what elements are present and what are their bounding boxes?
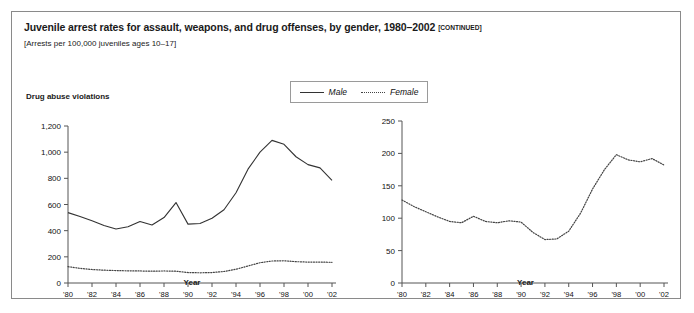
svg-text:'00: '00 — [303, 290, 313, 297]
line-chart-right: 050100150200250'80'82'84'86'88'90'92'94'… — [348, 92, 680, 297]
svg-text:'88: '88 — [159, 290, 169, 297]
svg-text:250: 250 — [382, 117, 396, 126]
panel-right-xlabel: Year — [388, 278, 663, 287]
svg-text:'88: '88 — [492, 290, 502, 297]
svg-text:50: 50 — [386, 247, 395, 256]
svg-text:'98: '98 — [611, 290, 621, 297]
svg-text:'96: '96 — [588, 290, 598, 297]
figure-title-continued: [CONTINUED] — [438, 24, 482, 31]
svg-text:200: 200 — [382, 149, 396, 158]
svg-text:'86: '86 — [135, 290, 145, 297]
svg-text:'82: '82 — [421, 290, 431, 297]
svg-text:'02: '02 — [659, 290, 669, 297]
svg-text:'80: '80 — [63, 290, 73, 297]
svg-text:'80: '80 — [397, 290, 407, 297]
svg-text:'02: '02 — [327, 290, 337, 297]
svg-text:100: 100 — [382, 214, 396, 223]
svg-text:'92: '92 — [540, 290, 550, 297]
svg-text:'86: '86 — [469, 290, 479, 297]
svg-text:'90: '90 — [183, 290, 193, 297]
svg-text:'94: '94 — [564, 290, 574, 297]
svg-text:'96: '96 — [255, 290, 265, 297]
svg-text:'90: '90 — [516, 290, 526, 297]
chart-panel-right: 050100150200250'80'82'84'86'88'90'92'94'… — [348, 92, 680, 297]
svg-text:1,200: 1,200 — [41, 122, 62, 131]
svg-text:800: 800 — [48, 174, 62, 183]
figure-title-text: Juvenile arrest rates for assault, weapo… — [24, 21, 435, 33]
svg-text:'82: '82 — [87, 290, 97, 297]
svg-text:400: 400 — [48, 227, 62, 236]
panel-left-xlabel: Year — [52, 278, 332, 287]
figure-panel: Juvenile arrest rates for assault, weapo… — [11, 11, 681, 299]
svg-text:1,000: 1,000 — [41, 148, 62, 157]
figure-title: Juvenile arrest rates for assault, weapo… — [24, 21, 482, 33]
svg-text:150: 150 — [382, 182, 396, 191]
svg-text:'00: '00 — [635, 290, 645, 297]
figure-subtitle: [Arrests per 100,000 juveniles ages 10–1… — [24, 39, 176, 48]
svg-text:'84: '84 — [445, 290, 455, 297]
svg-text:'92: '92 — [207, 290, 217, 297]
svg-text:'94: '94 — [231, 290, 241, 297]
svg-text:200: 200 — [48, 253, 62, 262]
svg-text:'84: '84 — [111, 290, 121, 297]
chart-panel-left: Drug abuse violations 02004006008001,000… — [12, 92, 348, 297]
svg-text:600: 600 — [48, 201, 62, 210]
svg-text:'98: '98 — [279, 290, 289, 297]
line-chart-left: 02004006008001,0001,200'80'82'84'86'88'9… — [12, 92, 348, 297]
